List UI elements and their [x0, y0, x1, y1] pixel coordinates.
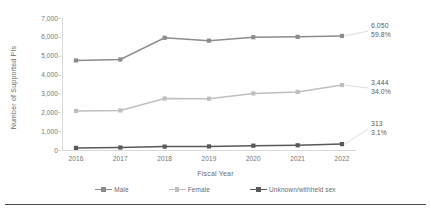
series-male [74, 31, 368, 63]
legend-marker-icon [95, 186, 112, 193]
data-point-marker [296, 90, 300, 94]
data-point-marker [340, 34, 344, 38]
data-point-marker [118, 108, 122, 112]
data-point-marker [74, 58, 78, 62]
end-label-value: 6,050 [371, 22, 391, 31]
data-point-marker [207, 39, 211, 43]
legend-item-unknown-withheld-sex[interactable]: Unknown/withheld sex [250, 186, 336, 193]
legend-label: Male [114, 186, 129, 193]
chart-legend: MaleFemaleUnknown/withheld sex [0, 186, 431, 193]
legend-label: Unknown/withheld sex [269, 186, 336, 193]
data-point-marker [340, 83, 344, 87]
series-unknown-withheld-sex [74, 129, 368, 150]
legend-label: Female [188, 186, 210, 193]
data-point-marker [163, 36, 167, 40]
data-point-marker [296, 35, 300, 39]
data-point-marker [251, 144, 255, 148]
end-label-value: 3,444 [371, 79, 391, 88]
bottom-divider [5, 204, 426, 205]
end-label-percent: 59.8% [371, 31, 391, 40]
data-point-marker [296, 143, 300, 147]
end-label-percent: 3.1% [371, 129, 387, 138]
data-point-marker [74, 146, 78, 150]
legend-marker-icon [250, 186, 267, 193]
end-label-value: 313 [371, 120, 387, 129]
series-female [74, 83, 368, 113]
end-label-female: 3,44434.0% [371, 79, 391, 96]
end-label-percent: 34.0% [371, 88, 391, 97]
data-point-marker [340, 142, 344, 146]
end-label-male: 6,05059.8% [371, 22, 391, 39]
data-point-marker [251, 35, 255, 39]
legend-item-female[interactable]: Female [169, 186, 210, 193]
data-point-marker [251, 91, 255, 95]
legend-item-male[interactable]: Male [95, 186, 129, 193]
chart-container: 01,0002,0003,0004,0005,0006,0007,000 201… [0, 0, 431, 210]
label-leader-line [345, 129, 368, 144]
end-label-unknown-withheld-sex: 3133.1% [371, 120, 387, 137]
legend-marker-icon [169, 186, 186, 193]
data-point-marker [118, 145, 122, 149]
data-point-marker [207, 144, 211, 148]
label-leader-line [345, 31, 368, 36]
data-point-marker [74, 109, 78, 113]
series-plot-area [0, 0, 431, 210]
data-point-marker [163, 96, 167, 100]
data-point-marker [163, 145, 167, 149]
data-point-marker [118, 57, 122, 61]
label-leader-line [345, 85, 368, 88]
data-point-marker [207, 97, 211, 101]
